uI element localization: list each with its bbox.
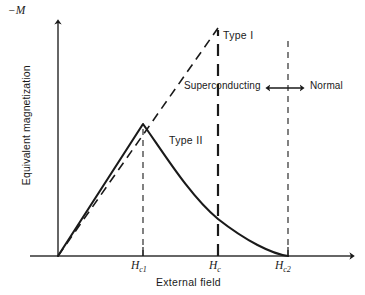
superconducting-region-label: Superconducting (184, 81, 261, 91)
y-axis-symbol: −M (8, 5, 25, 17)
plot-canvas (0, 0, 365, 295)
type-1-label: Type I (223, 30, 253, 41)
figure-container: −M Equivalent magnetization External fie… (0, 0, 365, 295)
hc2-subscript: c2 (283, 265, 291, 274)
hc-subscript: c (217, 265, 221, 274)
hc1-tick-label: Hc1 (131, 260, 147, 274)
hc2-tick-label: Hc2 (275, 260, 291, 274)
x-axis-label: External field (156, 277, 221, 288)
hc1-subscript: c1 (139, 265, 147, 274)
type-2-label: Type II (169, 135, 203, 146)
hc-tick-label: Hc (209, 260, 221, 274)
normal-region-label: Normal (310, 81, 343, 91)
y-axis-label: Equivalent magnetization (21, 45, 32, 205)
